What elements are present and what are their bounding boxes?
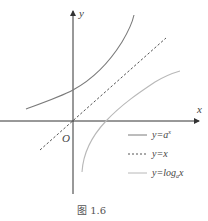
legend: y=ax y=x y=logax <box>128 129 184 179</box>
legend-log-main: y=log <box>151 167 176 178</box>
figure-caption: 图 1.6 <box>77 205 106 216</box>
legend-item-exp: y=ax <box>128 129 171 140</box>
exp-curve <box>26 15 134 109</box>
legend-identity-label: y=x <box>151 148 168 159</box>
legend-item-log: y=logax <box>128 167 184 179</box>
origin-label: O <box>62 132 70 144</box>
y-axis-label: y <box>78 7 84 19</box>
legend-log-tail: x <box>178 167 184 178</box>
x-axis-label: x <box>196 103 202 115</box>
legend-item-identity: y=x <box>128 148 168 159</box>
legend-exp-sup: x <box>167 129 171 135</box>
legend-exp-main: y=a <box>151 129 168 140</box>
svg-text:y=logax: y=logax <box>151 167 184 179</box>
function-graph: y x O y=ax y=x y=logax 图 1.6 <box>0 0 208 221</box>
identity-line <box>40 38 166 150</box>
svg-text:y=ax: y=ax <box>151 129 171 140</box>
